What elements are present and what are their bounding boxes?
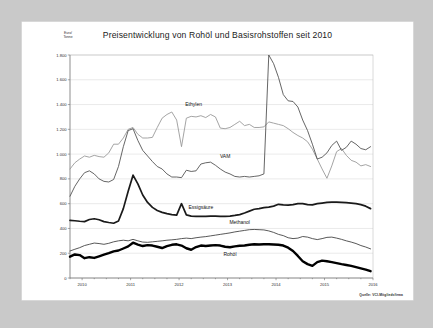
series-line-methanol	[70, 229, 371, 251]
y-tick-label: 600	[60, 201, 68, 206]
y-tick-label: 400	[60, 226, 68, 231]
series-line-essigsäure	[70, 175, 371, 223]
y-tick-label: 1.000	[56, 152, 67, 157]
x-tick-label: 2015	[320, 282, 330, 287]
y-axis-unit-label: Euro/ Tonne	[57, 31, 79, 39]
series-label-methanol: Methanol	[229, 219, 250, 225]
series-label-rohöl: Rohöl	[223, 251, 236, 257]
y-axis-unit-line2: Tonne	[57, 35, 79, 39]
page-title: Preisentwicklung von Rohöl und Basisrohs…	[22, 30, 413, 40]
series-line-ethylen	[70, 112, 371, 178]
x-tick-label: 2012	[175, 282, 185, 287]
x-tick-label: 2010	[78, 282, 88, 287]
y-tick-label: 1.200	[56, 127, 67, 132]
line-chart: 02004006008001.0001.2001.4001.6001.800 2…	[22, 22, 413, 300]
gridlines	[70, 55, 373, 278]
x-tick-label: 2016	[368, 282, 378, 287]
x-tick-label: 2013	[223, 282, 233, 287]
y-tick-label: 1.400	[56, 102, 67, 107]
plot-frame	[70, 55, 373, 278]
series-lines	[70, 55, 371, 271]
outer-frame: Preisentwicklung von Rohöl und Basisrohs…	[0, 0, 433, 328]
y-axis-ticks: 02004006008001.0001.2001.4001.6001.800	[56, 53, 70, 281]
plot-border	[70, 55, 373, 278]
chart-card: Preisentwicklung von Rohöl und Basisrohs…	[22, 22, 413, 300]
y-tick-label: 1.600	[56, 77, 67, 82]
series-label-ethylen: Ethylen	[185, 101, 202, 107]
y-tick-label: 800	[60, 176, 68, 181]
series-line-rohöl	[70, 243, 371, 272]
series-label-vam: VAM	[220, 153, 230, 159]
y-tick-label: 200	[60, 251, 68, 256]
y-tick-label: 0	[64, 276, 67, 281]
series-label-essigsäure: Essigsäure	[189, 204, 214, 210]
x-axis-ticks: 2010201120122013201420152016	[70, 278, 378, 287]
source-note: Quelle: VCI-Mitgliedsfirma	[359, 293, 403, 297]
x-tick-label: 2011	[126, 282, 136, 287]
x-tick-label: 2014	[271, 282, 281, 287]
y-tick-label: 1.800	[56, 53, 67, 58]
